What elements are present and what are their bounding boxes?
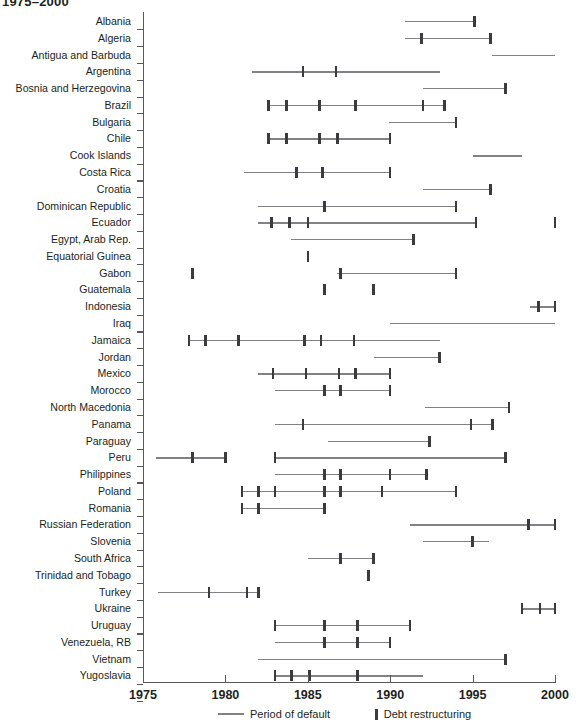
debt-restructuring-marker [323, 469, 326, 480]
y-axis-tick [137, 684, 143, 685]
debt-restructuring-marker [303, 335, 306, 346]
debt-restructuring-marker [241, 486, 244, 497]
y-axis-label-ukraine: Ukraine [0, 603, 131, 614]
debt-restructuring-marker [274, 486, 277, 497]
period-of-default-bar [275, 625, 410, 626]
debt-restructuring-marker [339, 385, 342, 396]
y-axis-label-croatia: Croatia [0, 184, 131, 195]
debt-restructuring-marker [237, 335, 240, 346]
debt-restructuring-marker [356, 637, 359, 648]
y-axis-tick [137, 164, 143, 165]
y-axis-label-romania: Romania [0, 503, 131, 514]
debt-restructuring-marker [471, 536, 474, 547]
period-of-default-bar [405, 38, 491, 39]
y-axis-tick [137, 499, 143, 500]
debt-restructuring-marker [191, 452, 194, 463]
debt-restructuring-marker [267, 100, 270, 111]
legend-label-restructuring: Debt restructuring [384, 708, 471, 720]
y-axis-tick [137, 650, 143, 651]
x-axis-tick [143, 675, 144, 683]
y-axis-label-albania: Albania [0, 16, 131, 27]
debt-restructuring-marker [491, 419, 494, 430]
y-axis-tick [137, 432, 143, 433]
y-axis-tick [137, 600, 143, 601]
x-axis-tick [555, 675, 556, 683]
debt-restructuring-marker [354, 100, 357, 111]
period-of-default-bar [328, 441, 430, 442]
period-of-default-bar [275, 642, 390, 643]
y-axis-label-philippines: Philippines [0, 469, 131, 480]
debt-restructuring-marker [339, 469, 342, 480]
debt-restructuring-marker [554, 217, 557, 228]
y-axis-tick [137, 415, 143, 416]
debt-restructuring-marker [307, 217, 310, 228]
debt-restructuring-marker [353, 335, 356, 346]
debt-restructuring-marker [372, 284, 375, 295]
period-of-default-bar [423, 189, 491, 190]
period-of-default-bar [423, 88, 505, 89]
debt-restructuring-marker [389, 167, 392, 178]
debt-restructuring-marker [389, 133, 392, 144]
debt-restructuring-marker [323, 201, 326, 212]
y-axis-tick [137, 29, 143, 30]
debt-restructuring-marker [302, 419, 305, 430]
y-axis-tick [137, 97, 143, 98]
period-of-default-bar [425, 407, 509, 408]
y-axis-tick [137, 516, 143, 517]
debt-restructuring-marker [443, 100, 446, 111]
debt-restructuring-marker [425, 469, 428, 480]
y-axis-label-iraq: Iraq [0, 318, 131, 329]
y-axis-tick [137, 331, 143, 332]
y-axis-label-north-macedonia: North Macedonia [0, 402, 131, 413]
legend-item-debt-restructuring: Debt restructuring [375, 708, 471, 720]
y-axis-tick [137, 231, 143, 232]
y-axis-label-costa-rica: Costa Rica [0, 167, 131, 178]
debt-restructuring-marker [208, 587, 211, 598]
debt-restructuring-marker [470, 419, 473, 430]
y-axis-label-russian-federation: Russian Federation [0, 519, 131, 530]
y-axis-tick [137, 46, 143, 47]
x-axis-tick [473, 675, 474, 683]
debt-restructuring-marker [257, 486, 260, 497]
debt-restructuring-marker [372, 553, 375, 564]
period-of-default-bar [275, 675, 423, 676]
debt-restructuring-marker [381, 486, 384, 497]
y-axis-tick [137, 667, 143, 668]
debt-restructuring-marker [412, 234, 415, 245]
y-axis-tick [137, 382, 143, 383]
debt-restructuring-marker [537, 301, 540, 312]
debt-restructuring-marker [335, 66, 338, 77]
y-axis-tick [137, 315, 143, 316]
debt-restructuring-marker [305, 368, 308, 379]
y-axis-tick [137, 147, 143, 148]
y-axis-tick [137, 365, 143, 366]
debt-restructuring-marker [241, 503, 244, 514]
period-of-default-bar [492, 55, 555, 56]
y-axis-label-bosnia-and-herzegovina: Bosnia and Herzegovina [0, 83, 131, 94]
y-axis-tick [137, 617, 143, 618]
debt-restructuring-marker [323, 284, 326, 295]
y-axis-label-guatemala: Guatemala [0, 284, 131, 295]
period-of-default-bar [275, 390, 390, 391]
debt-restructuring-marker [354, 368, 357, 379]
x-axis-tick-label-1985: 1985 [294, 688, 322, 702]
debt-restructuring-marker [295, 167, 298, 178]
period-of-default-bar [337, 273, 456, 274]
y-axis-label-poland: Poland [0, 486, 131, 497]
debt-restructuring-marker [336, 133, 339, 144]
y-axis-label-south-africa: South Africa [0, 553, 131, 564]
y-axis-label-mexico: Mexico [0, 368, 131, 379]
debt-restructuring-marker [267, 133, 270, 144]
debt-restructuring-marker [428, 436, 431, 447]
debt-restructuring-marker [257, 503, 260, 514]
y-axis-line [143, 12, 144, 682]
debt-restructuring-marker [420, 33, 423, 44]
debt-restructuring-marker [318, 133, 321, 144]
period-of-default-bar [390, 323, 555, 324]
y-axis-label-yugoslavia: Yugoslavia [0, 670, 131, 681]
debt-restructuring-marker [274, 670, 277, 681]
debt-restructuring-marker [302, 66, 305, 77]
debt-restructuring-marker [323, 503, 326, 514]
debt-restructuring-marker [489, 184, 492, 195]
y-axis-label-antigua-and-barbuda: Antigua and Barbuda [0, 50, 131, 61]
